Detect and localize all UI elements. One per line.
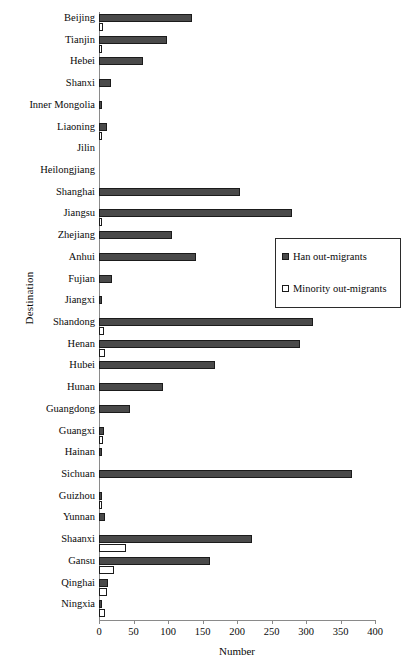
bar-group — [99, 36, 375, 56]
bar-group — [99, 448, 375, 468]
bar-minority — [99, 132, 102, 140]
bar-han — [99, 600, 102, 608]
bar-group — [99, 318, 375, 338]
y-tick-label: Henan — [0, 338, 95, 349]
x-tick-mark — [272, 620, 273, 624]
bar-group — [99, 600, 375, 620]
y-tick-label: Zhejiang — [0, 229, 95, 240]
filled-square-icon — [282, 253, 289, 260]
y-tick-label: Hunan — [0, 381, 95, 392]
legend: Han out-migrants Minority out-migrants — [275, 238, 401, 308]
bar-minority — [99, 566, 114, 574]
bar-minority — [99, 349, 105, 357]
bar-minority — [99, 23, 103, 31]
bar-han — [99, 36, 167, 44]
x-tick-label: 400 — [355, 626, 395, 637]
y-tick-label: Heilongjiang — [0, 164, 95, 175]
y-tick-label: Gansu — [0, 555, 95, 566]
bar-minority — [99, 218, 102, 226]
y-tick-label: Liaoning — [0, 121, 95, 132]
bar-minority — [99, 609, 105, 617]
y-tick-label: Guangdong — [0, 403, 95, 414]
x-tick-mark — [99, 620, 100, 624]
bar-group — [99, 470, 375, 490]
bar-group — [99, 535, 375, 555]
legend-item-han: Han out-migrants — [282, 251, 367, 262]
x-tick-mark — [375, 620, 376, 624]
bar-group — [99, 427, 375, 447]
bar-group — [99, 361, 375, 381]
legend-label-han: Han out-migrants — [293, 251, 367, 262]
bar-han — [99, 513, 105, 521]
bar-han — [99, 535, 252, 543]
y-tick-label: Ningxia — [0, 598, 95, 609]
x-tick-mark — [341, 620, 342, 624]
x-tick-mark — [168, 620, 169, 624]
bar-group — [99, 79, 375, 99]
bar-han — [99, 14, 192, 22]
bar-minority — [99, 588, 107, 596]
bar-han — [99, 296, 102, 304]
bar-han — [99, 253, 196, 261]
bar-minority — [99, 436, 103, 444]
bar-han — [99, 492, 102, 500]
bar-han — [99, 275, 112, 283]
bar-minority — [99, 45, 102, 53]
y-tick-label: Shanghai — [0, 186, 95, 197]
bar-group — [99, 383, 375, 403]
x-tick-mark — [237, 620, 238, 624]
y-tick-label: Shaanxi — [0, 533, 95, 544]
bar-group — [99, 57, 375, 77]
bar-group — [99, 123, 375, 143]
bar-han — [99, 79, 111, 87]
bar-group — [99, 340, 375, 360]
bar-han — [99, 340, 300, 348]
bar-han — [99, 209, 292, 217]
y-tick-label: Guizhou — [0, 490, 95, 501]
bar-han — [99, 57, 143, 65]
bar-han — [99, 448, 102, 456]
bar-group — [99, 144, 375, 164]
y-tick-label: Shandong — [0, 316, 95, 327]
y-tick-label: Jiangxi — [0, 294, 95, 305]
x-axis-title: Number — [99, 645, 375, 657]
legend-label-minority: Minority out-migrants — [293, 283, 387, 294]
y-tick-label: Anhui — [0, 251, 95, 262]
bar-group — [99, 513, 375, 533]
open-square-icon — [282, 285, 289, 292]
bar-minority — [99, 501, 102, 509]
bar-han — [99, 557, 210, 565]
y-tick-label: Hebei — [0, 55, 95, 66]
bar-minority — [99, 327, 104, 335]
legend-item-minority: Minority out-migrants — [282, 283, 387, 294]
bar-group — [99, 579, 375, 599]
y-tick-label: Sichuan — [0, 468, 95, 479]
y-tick-label: Fujian — [0, 273, 95, 284]
bar-group — [99, 492, 375, 512]
x-tick-mark — [134, 620, 135, 624]
bar-han — [99, 383, 163, 391]
bar-group — [99, 14, 375, 34]
bar-han — [99, 470, 352, 478]
y-tick-label: Qinghai — [0, 577, 95, 588]
bar-group — [99, 209, 375, 229]
bar-han — [99, 101, 102, 109]
bar-group — [99, 101, 375, 121]
y-tick-label: Jiangsu — [0, 207, 95, 218]
bar-chart: Destination Number BeijingTianjinHebeiSh… — [0, 0, 416, 668]
bar-group — [99, 166, 375, 186]
bar-han — [99, 318, 313, 326]
y-tick-label: Hainan — [0, 446, 95, 457]
y-tick-label: Yunnan — [0, 511, 95, 522]
bar-han — [99, 361, 215, 369]
bar-minority — [99, 544, 126, 552]
bar-han — [99, 188, 240, 196]
y-tick-label: Hubei — [0, 359, 95, 370]
y-tick-label: Tianjin — [0, 34, 95, 45]
x-tick-mark — [306, 620, 307, 624]
bar-han — [99, 123, 107, 131]
plot-area: 050100150200250300350400 — [99, 12, 375, 620]
bar-han — [99, 405, 130, 413]
y-tick-label: Shanxi — [0, 77, 95, 88]
y-tick-label: Beijing — [0, 12, 95, 23]
